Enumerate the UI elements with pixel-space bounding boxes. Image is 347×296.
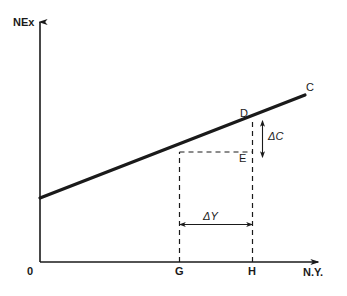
x-tick-label-g: G	[175, 266, 184, 277]
delta-y-label: ΔY	[203, 211, 218, 222]
delta-c-label: ΔC	[268, 131, 283, 142]
x-axis-label: N.Y.	[303, 267, 323, 278]
x-tick-label-h: H	[248, 266, 256, 277]
net-exports-diagram: NEx N.Y. 0 G H C D E ΔC ΔY	[0, 0, 347, 296]
point-label-d: D	[240, 108, 248, 119]
curve-label-c: C	[306, 82, 314, 93]
point-label-e: E	[239, 153, 246, 164]
y-axis-label: NEx	[13, 17, 34, 28]
origin-label: 0	[27, 266, 33, 277]
diagram-canvas	[0, 0, 347, 296]
curve-c	[40, 95, 305, 198]
